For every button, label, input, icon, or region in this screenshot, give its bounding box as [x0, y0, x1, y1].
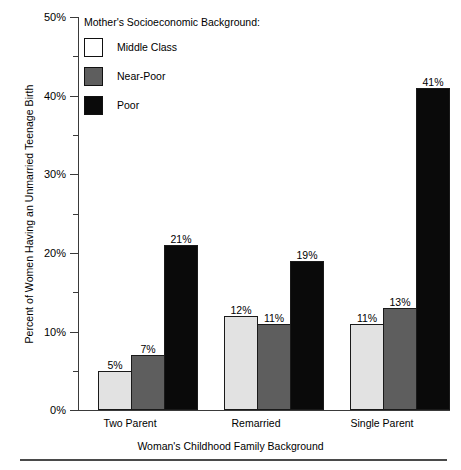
bar-label-remarried-poor: 19%: [290, 249, 324, 261]
y-tick-major-0: [70, 410, 79, 411]
y-tick-major-10: [70, 332, 79, 333]
bar-two-parent-near-poor[interactable]: [131, 355, 165, 410]
y-tick-label-20: 20%: [6, 248, 66, 259]
legend-swatch-middle-class-icon: [84, 38, 103, 57]
bar-label-two-parent-poor: 21%: [164, 233, 198, 245]
legend-title: Mother's Socioeconomic Background:: [84, 16, 332, 29]
y-tick-label-50: 50%: [6, 12, 66, 23]
x-category-label-two-parent: Two Parent: [90, 417, 170, 430]
bar-single-parent-near-poor[interactable]: [383, 308, 417, 410]
bottom-separator-rule: [20, 459, 447, 461]
bar-single-parent-poor[interactable]: [416, 88, 450, 410]
legend-item-middle-class[interactable]: Middle Class: [82, 36, 332, 59]
y-tick-label-0: 0%: [6, 405, 66, 416]
chart-figure: Percent of Women Having an Unmarried Tee…: [0, 0, 461, 470]
legend-item-poor[interactable]: Poor: [82, 94, 332, 117]
bar-remarried-middle-class[interactable]: [224, 316, 258, 410]
bar-single-parent-middle-class[interactable]: [350, 324, 384, 410]
bar-two-parent-poor[interactable]: [164, 245, 198, 410]
legend-swatch-poor-icon: [84, 96, 103, 115]
bar-label-single-parent-middle-class: 11%: [350, 312, 384, 324]
x-axis-line: [78, 410, 450, 411]
legend-item-near-poor[interactable]: Near-Poor: [82, 65, 332, 88]
x-axis-title: Woman's Childhood Family Background: [0, 440, 461, 453]
y-tick-label-30: 30%: [6, 169, 66, 180]
bar-remarried-poor[interactable]: [290, 261, 324, 410]
y-tick-major-30: [70, 174, 79, 175]
x-category-label-remarried: Remarried: [216, 417, 296, 430]
bar-label-single-parent-poor: 41%: [416, 76, 450, 88]
y-tick-label-10: 10%: [6, 327, 66, 338]
legend-label-middle-class: Middle Class: [117, 41, 177, 54]
y-tick-major-40: [70, 96, 79, 97]
bar-label-remarried-near-poor: 11%: [257, 312, 291, 324]
y-axis-title: Percent of Women Having an Unmarried Tee…: [22, 17, 36, 411]
legend-swatch-near-poor-icon: [84, 67, 103, 86]
bar-two-parent-middle-class[interactable]: [98, 371, 132, 410]
y-tick-label-40: 40%: [6, 91, 66, 102]
bar-remarried-near-poor[interactable]: [257, 324, 291, 410]
legend-label-near-poor: Near-Poor: [117, 70, 165, 83]
chart-legend: Mother's Socioeconomic Background: Middl…: [82, 16, 332, 123]
legend-label-poor: Poor: [117, 99, 139, 112]
x-category-label-single-parent: Single Parent: [342, 417, 422, 430]
bar-label-two-parent-middle-class: 5%: [98, 359, 132, 371]
bar-label-remarried-middle-class: 12%: [224, 304, 258, 316]
bar-label-single-parent-near-poor: 13%: [383, 296, 417, 308]
y-tick-major-50: [70, 17, 79, 18]
y-tick-major-20: [70, 253, 79, 254]
bar-label-two-parent-near-poor: 7%: [131, 343, 165, 355]
